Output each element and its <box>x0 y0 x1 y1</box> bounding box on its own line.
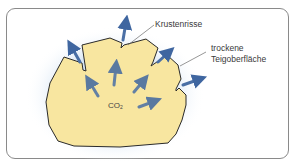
label-co2: CO2 <box>108 100 123 113</box>
co2-subscript: 2 <box>120 104 123 110</box>
label-crust-cracks: Krustenrisse <box>155 19 202 30</box>
label-dry-surface-line1: trockene <box>211 43 266 54</box>
dough-diagram <box>0 0 293 165</box>
co2-main: CO <box>108 101 120 110</box>
label-dry-surface-line2: Teigoberfläche <box>211 54 266 65</box>
label-dry-surface: trockene Teigoberfläche <box>211 43 266 65</box>
